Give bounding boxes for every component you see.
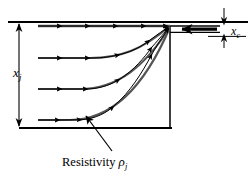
diagram-svg: [0, 0, 252, 177]
label-junction-depth: xj: [13, 66, 21, 79]
label-contact-depth: xc: [231, 25, 240, 37]
label-resistivity: Resistivity ρj: [62, 155, 127, 169]
label-resistivity-prefix: Resistivity: [62, 155, 119, 169]
label-resistivity-symbol: ρ: [119, 154, 125, 169]
figure-canvas: xj xc Resistivity ρj: [0, 0, 252, 177]
label-xj-symbol: x: [13, 65, 19, 80]
label-xc-subscript: c: [236, 31, 240, 40]
resistivity-leader-line: [86, 116, 112, 151]
